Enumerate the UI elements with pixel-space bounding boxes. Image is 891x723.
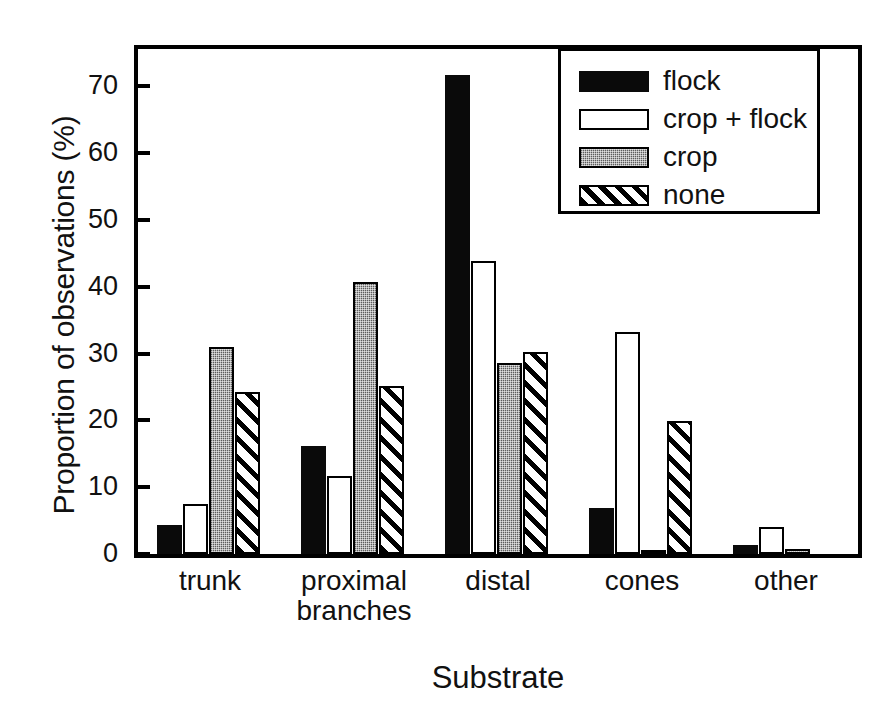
- bar-crop-flock-distal: [471, 261, 496, 554]
- bar-group: [445, 49, 548, 554]
- legend-swatch-cropflock-icon: [579, 109, 649, 130]
- x-axis-title: Substrate: [134, 660, 862, 696]
- bar-flock-cones: [589, 508, 614, 554]
- bar-flock-trunk: [157, 525, 182, 554]
- y-axis-tick-label: 40: [48, 273, 118, 300]
- bar-crop-flock-proximal-branches: [327, 476, 352, 554]
- bar-group: [157, 49, 260, 554]
- bar-crop-other: [785, 549, 810, 554]
- y-axis-tick-label: 20: [48, 406, 118, 433]
- x-axis-tick-label-distal: distal: [426, 566, 570, 596]
- bar-crop-flock-cones: [615, 332, 640, 554]
- legend-label: none: [663, 181, 725, 209]
- bar-flock-other: [733, 545, 758, 554]
- legend-label: crop + flock: [663, 105, 807, 133]
- bar-none-cones: [667, 421, 692, 554]
- legend-label: crop: [663, 143, 717, 171]
- x-axis-tick-label-proximal-branches: proximal branches: [282, 566, 426, 626]
- legend-item-crop[interactable]: crop: [579, 139, 817, 175]
- bar-flock-proximal-branches: [301, 446, 326, 554]
- bar-crop-proximal-branches: [353, 282, 378, 554]
- bar-chart-figure: Proportion of observations (%) 010203040…: [0, 0, 891, 723]
- bar-crop-trunk: [209, 347, 234, 554]
- x-axis-tick-label-trunk: trunk: [138, 566, 282, 596]
- bar-none-proximal-branches: [379, 386, 404, 554]
- y-axis-tick-label: 30: [48, 340, 118, 367]
- bar-group: [301, 49, 404, 554]
- x-axis-tick-labels: trunkproximal branchesdistalconesother: [134, 566, 862, 650]
- x-axis-tick-label-other: other: [714, 566, 858, 596]
- bar-crop-flock-trunk: [183, 504, 208, 554]
- legend-item-none[interactable]: none: [579, 177, 817, 213]
- legend-item-flock[interactable]: flock: [579, 63, 817, 99]
- x-axis-tick-label-cones: cones: [570, 566, 714, 596]
- legend-swatch-crop-icon: [579, 147, 649, 168]
- legend-box: flockcrop + flockcropnone: [558, 48, 820, 214]
- y-axis-tick-label: 60: [48, 139, 118, 166]
- bar-flock-distal: [445, 75, 470, 554]
- y-axis-tick-label: 0: [48, 540, 118, 567]
- legend-label: flock: [663, 67, 721, 95]
- bar-crop-distal: [497, 363, 522, 554]
- y-axis-tick-label: 70: [48, 72, 118, 99]
- legend-swatch-flock-icon: [579, 71, 649, 92]
- y-axis-tick-label: 10: [48, 473, 118, 500]
- legend-item-cropflock[interactable]: crop + flock: [579, 101, 817, 137]
- bar-crop-cones: [641, 550, 666, 554]
- bar-none-distal: [523, 352, 548, 554]
- bar-crop-flock-other: [759, 527, 784, 554]
- bar-none-trunk: [235, 392, 260, 554]
- legend-swatch-none-icon: [579, 185, 649, 206]
- y-axis-title: Proportion of observations (%): [47, 35, 81, 595]
- y-axis-tick-label: 50: [48, 206, 118, 233]
